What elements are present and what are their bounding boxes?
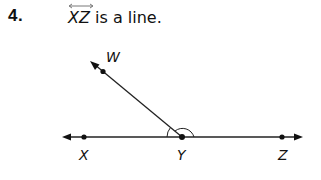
point-x xyxy=(81,134,86,139)
label-w: W xyxy=(106,49,121,65)
ray-yw xyxy=(94,64,182,137)
geometry-figure: W X Y Z xyxy=(0,0,321,180)
label-z: Z xyxy=(277,147,288,163)
ray-arrowhead-icon xyxy=(90,61,100,70)
point-w xyxy=(100,69,105,74)
right-arrowhead-icon xyxy=(294,134,303,141)
angle-xyw-arc xyxy=(167,128,171,138)
label-x: X xyxy=(78,147,89,163)
point-z xyxy=(279,134,284,139)
left-arrowhead-icon xyxy=(62,134,71,141)
point-y xyxy=(179,134,185,140)
label-y: Y xyxy=(177,147,187,163)
